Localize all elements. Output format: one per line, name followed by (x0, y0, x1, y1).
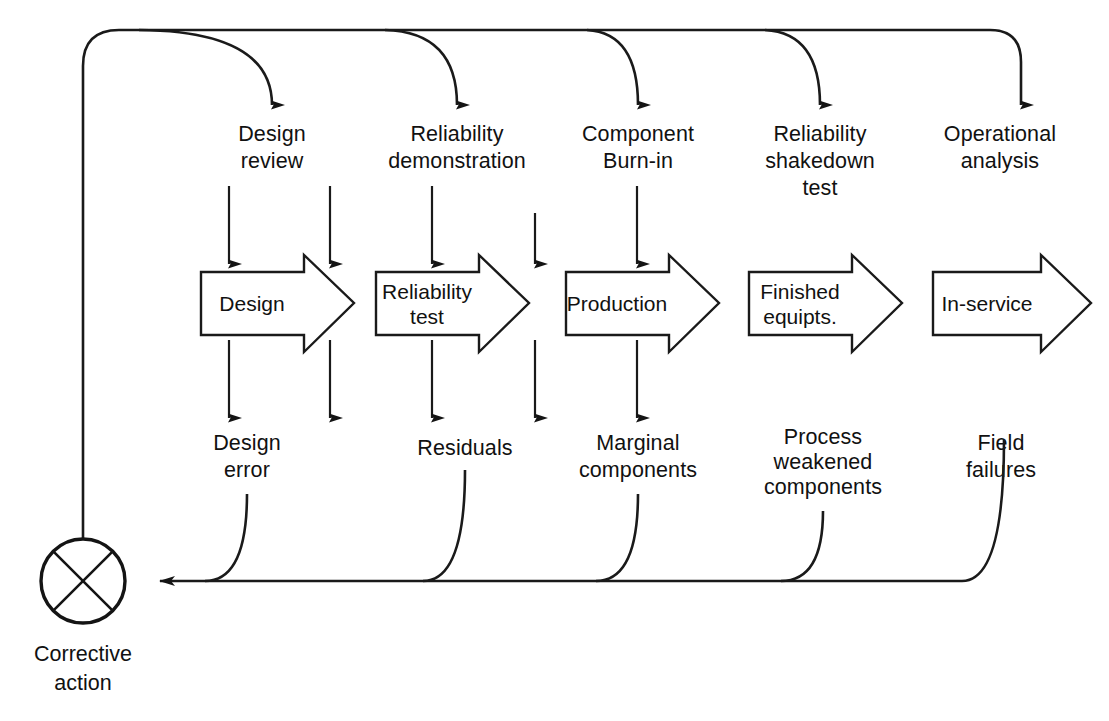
top-label-line2: analysis (961, 149, 1039, 173)
top-label-line1: Reliability (773, 122, 866, 146)
top-branch-arrows (139, 30, 1021, 105)
bottom-label-line1: Marginal (596, 431, 679, 455)
bottom-label-line2: failures (966, 458, 1036, 482)
stage-label-line1: Reliability (382, 280, 472, 303)
diagram-canvas: Design review Reliability demonstration … (0, 0, 1109, 721)
top-label-line1: Component (582, 122, 694, 146)
bottom-label-line3: components (764, 475, 882, 499)
top-label-group-production: Component Burn-in (582, 122, 694, 173)
stage-block-production[interactable]: Production (566, 255, 719, 352)
top-label-group-finished-equipts: Reliability shakedown test (765, 122, 875, 200)
top-label-group-reliability-test: Reliability demonstration (388, 122, 526, 173)
stage-arrow-shape-finished-equipts[interactable] (749, 255, 902, 352)
stage-arrow-shape-reliability-test[interactable] (376, 255, 529, 352)
corrective-action-node[interactable]: Corrective action (34, 539, 132, 695)
bottom-label-group-marginal-components: Marginal components (579, 431, 697, 482)
top-label-line2: Burn-in (603, 149, 673, 173)
corrective-action-label-line1: Corrective (34, 642, 132, 666)
top-branch-arrow-reliability-test (385, 30, 457, 105)
bottom-label-group-design-error: Design error (213, 431, 281, 482)
bottom-label-group-process-weakened-components: Process weakened components (764, 425, 882, 499)
top-label-line2: review (241, 149, 304, 173)
top-label-line1: Design (238, 122, 306, 146)
top-branch-arrow-design (139, 30, 272, 105)
bottom-label-line1: Process (784, 425, 862, 449)
bottom-label-group-residuals: Residuals (417, 436, 512, 460)
stage-label-line1: Finished (760, 280, 839, 303)
label-to-stage-connectors (229, 186, 637, 264)
top-label-line1: Operational (944, 122, 1056, 146)
bottom-label-line2: components (579, 458, 697, 482)
top-label-line2: demonstration (388, 149, 526, 173)
top-label-line2: shakedown (765, 149, 875, 173)
top-branch-arrow-finished-equipts (765, 30, 820, 105)
stage-block-design[interactable]: Design (201, 255, 354, 352)
top-branch-arrow-production (587, 30, 638, 105)
top-label-group-design: Design review (238, 122, 306, 173)
bottom-label-line1: Field (977, 431, 1024, 455)
bottom-riser-residuals (423, 470, 465, 581)
stage-label-line1: Production (567, 292, 667, 315)
stage-block-in-service[interactable]: In-service (933, 255, 1091, 352)
bottom-riser-marginal-components (596, 494, 638, 581)
stage-block-finished-equipts[interactable]: Finished equipts. (749, 255, 902, 352)
corrective-action-label-line2: action (54, 671, 111, 695)
bottom-label-line2: error (224, 458, 270, 482)
stage-label-line2: equipts. (763, 305, 837, 328)
bottom-riser-process-weakened-components (781, 511, 823, 581)
bottom-label-line1: Residuals (417, 436, 512, 460)
stage-label-line2: test (410, 305, 444, 328)
top-label-group-in-service: Operational analysis (944, 122, 1056, 173)
bottom-riser-design-error (205, 494, 247, 581)
bottom-label-line2: weakened (773, 450, 873, 474)
stage-label-line1: Design (219, 292, 284, 315)
top-label-line3: test (802, 176, 837, 200)
corrective-action-flow-diagram: Design review Reliability demonstration … (0, 0, 1109, 721)
bottom-label-group-field-failures: Field failures (966, 431, 1036, 482)
top-label-line1: Reliability (410, 122, 503, 146)
bottom-label-line1: Design (213, 431, 281, 455)
stage-label-line1: In-service (941, 292, 1032, 315)
stage-to-bottom-connectors (229, 340, 637, 418)
stage-block-reliability-test[interactable]: Reliability test (376, 255, 529, 352)
